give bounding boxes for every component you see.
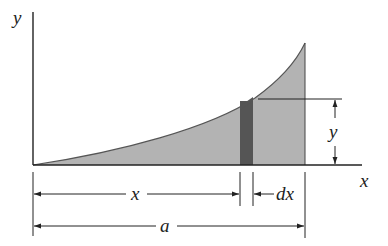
- area-under-curve-diagram: y x y x dx a: [0, 0, 388, 246]
- differential-strip: [240, 101, 253, 165]
- y-axis-label: y: [11, 7, 22, 28]
- strip-position-label: x: [130, 183, 140, 204]
- total-length-label: a: [160, 215, 170, 236]
- strip-width-label: dx: [276, 183, 295, 204]
- strip-height-label: y: [327, 121, 338, 142]
- x-axis-label: x: [359, 170, 369, 191]
- shaded-area: [33, 43, 305, 165]
